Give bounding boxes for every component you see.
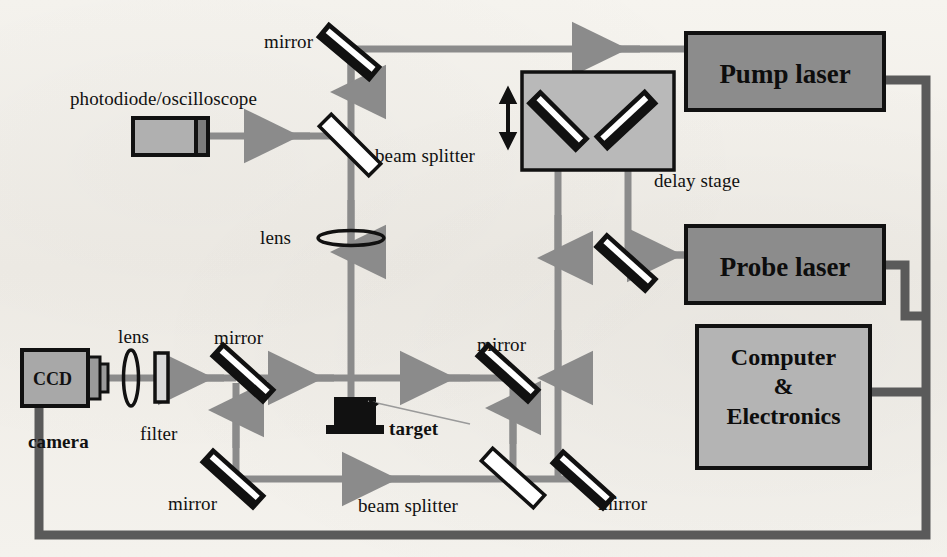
delay-stage-translation-arrow: [502, 90, 514, 146]
mirror-camera-upper[interactable]: [211, 343, 275, 403]
label-delay-stage: delay stage: [654, 171, 740, 190]
label-mirror-bottom-left: mirror: [168, 494, 217, 513]
label-mirror-camera: mirror: [214, 328, 263, 347]
label-lens-camera: lens: [118, 327, 149, 346]
computer-electronics-box[interactable]: [697, 326, 870, 468]
photodiode-oscilloscope-device[interactable]: [133, 118, 208, 155]
figure-canvas: mirror photodiode/oscilloscope beam spli…: [0, 0, 947, 557]
label-filter: filter: [140, 424, 178, 443]
cable-probe-to-computer: [884, 265, 926, 316]
label-target: target: [389, 419, 438, 438]
pump-laser-box[interactable]: [686, 33, 884, 110]
label-lens-top: lens: [260, 228, 291, 247]
label-mirror-target-right: mirror: [477, 335, 526, 354]
label-beam-splitter-top: beam splitter: [375, 146, 475, 165]
probe-laser-box[interactable]: [686, 226, 884, 303]
label-mirror-top: mirror: [264, 32, 313, 51]
optical-setup-svg: [0, 0, 947, 557]
label-ccd: CCD: [33, 369, 72, 390]
label-camera: camera: [28, 432, 89, 451]
label-photodiode-oscilloscope: photodiode/oscilloscope: [70, 89, 257, 108]
label-mirror-bottom-right: mirror: [598, 494, 647, 513]
filter-plate: [155, 353, 168, 402]
label-beam-splitter-bottom: beam splitter: [358, 496, 458, 515]
